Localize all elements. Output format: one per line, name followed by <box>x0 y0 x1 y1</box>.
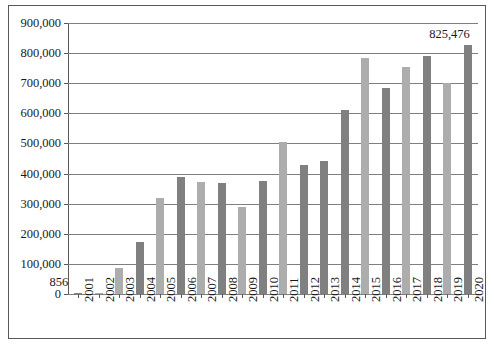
bar <box>402 67 410 294</box>
y-axis-tick-label: 300,000 <box>20 197 61 210</box>
bar <box>443 83 451 294</box>
gridline <box>68 264 478 265</box>
x-tick-mark <box>406 294 407 298</box>
y-tick-mark <box>64 294 68 295</box>
x-axis-tick-label: 2002 <box>104 277 117 302</box>
x-axis-tick-label: 2003 <box>124 277 137 302</box>
y-tick-mark <box>64 204 68 205</box>
x-axis-tick-label: 2017 <box>411 277 424 302</box>
gridline <box>68 204 478 205</box>
y-tick-mark <box>64 234 68 235</box>
x-axis-tick-label: 2019 <box>452 277 465 302</box>
x-axis-tick-label: 2014 <box>350 277 363 302</box>
bar <box>423 56 431 294</box>
x-tick-mark <box>78 294 79 298</box>
bar <box>382 88 390 294</box>
x-tick-mark <box>427 294 428 298</box>
y-tick-mark <box>64 23 68 24</box>
y-axis-tick-label: 800,000 <box>20 47 61 60</box>
x-axis-tick-label: 2006 <box>186 277 199 302</box>
gridline <box>68 174 478 175</box>
x-tick-mark <box>242 294 243 298</box>
bar <box>464 45 472 294</box>
x-tick-mark <box>181 294 182 298</box>
x-tick-mark <box>140 294 141 298</box>
y-tick-mark <box>64 264 68 265</box>
x-axis-tick-label: 2015 <box>370 277 383 302</box>
plot-area: 900,000800,000700,000600,000500,000400,0… <box>68 23 478 294</box>
bar <box>279 142 287 294</box>
x-tick-mark <box>447 294 448 298</box>
y-tick-mark <box>64 143 68 144</box>
x-axis-tick-label: 2020 <box>473 277 486 302</box>
x-axis-tick-label: 2011 <box>288 277 301 302</box>
chart-figure: 900,000800,000700,000600,000500,000400,0… <box>0 0 494 351</box>
x-axis-tick-label: 2004 <box>145 277 158 302</box>
y-axis-tick-label: 0 <box>55 288 61 301</box>
y-tick-mark <box>64 174 68 175</box>
x-axis-tick-label: 2018 <box>432 277 445 302</box>
x-tick-mark <box>283 294 284 298</box>
data-point-label: 856 <box>50 276 69 289</box>
x-tick-mark <box>468 294 469 298</box>
x-tick-mark <box>160 294 161 298</box>
x-tick-mark <box>386 294 387 298</box>
gridline <box>68 53 478 54</box>
x-axis-tick-label: 2009 <box>247 277 260 302</box>
bar <box>361 58 369 294</box>
bar <box>320 161 328 294</box>
x-axis-tick-label: 2007 <box>206 277 219 302</box>
y-axis-tick-label: 100,000 <box>20 258 61 271</box>
y-axis-tick-label: 500,000 <box>20 137 61 150</box>
x-tick-mark <box>365 294 366 298</box>
gridline <box>68 113 478 114</box>
x-tick-mark <box>99 294 100 298</box>
x-axis-tick-label: 2013 <box>329 277 342 302</box>
x-tick-mark <box>345 294 346 298</box>
gridline <box>68 234 478 235</box>
x-axis-tick-label: 2001 <box>83 277 96 302</box>
x-tick-mark <box>304 294 305 298</box>
y-tick-mark <box>64 53 68 54</box>
y-axis-tick-label: 600,000 <box>20 107 61 120</box>
y-tick-mark <box>64 113 68 114</box>
x-tick-mark <box>222 294 223 298</box>
y-axis-tick-label: 900,000 <box>20 17 61 30</box>
x-axis-tick-label: 2008 <box>227 277 240 302</box>
gridline <box>68 83 478 84</box>
x-axis-tick-label: 2005 <box>165 277 178 302</box>
x-tick-mark <box>119 294 120 298</box>
x-axis-tick-label: 2012 <box>309 277 322 302</box>
y-tick-mark <box>64 83 68 84</box>
x-tick-mark <box>324 294 325 298</box>
x-axis-tick-label: 2010 <box>268 277 281 302</box>
data-point-label: 825,476 <box>429 28 470 41</box>
bar <box>341 110 349 294</box>
x-tick-mark <box>201 294 202 298</box>
x-tick-mark <box>263 294 264 298</box>
gridline <box>68 23 478 24</box>
y-axis-tick-label: 700,000 <box>20 77 61 90</box>
bar <box>300 165 308 294</box>
x-axis-tick-label: 2016 <box>391 277 404 302</box>
gridline <box>68 143 478 144</box>
y-axis-tick-label: 200,000 <box>20 228 61 241</box>
y-axis-tick-label: 400,000 <box>20 167 61 180</box>
